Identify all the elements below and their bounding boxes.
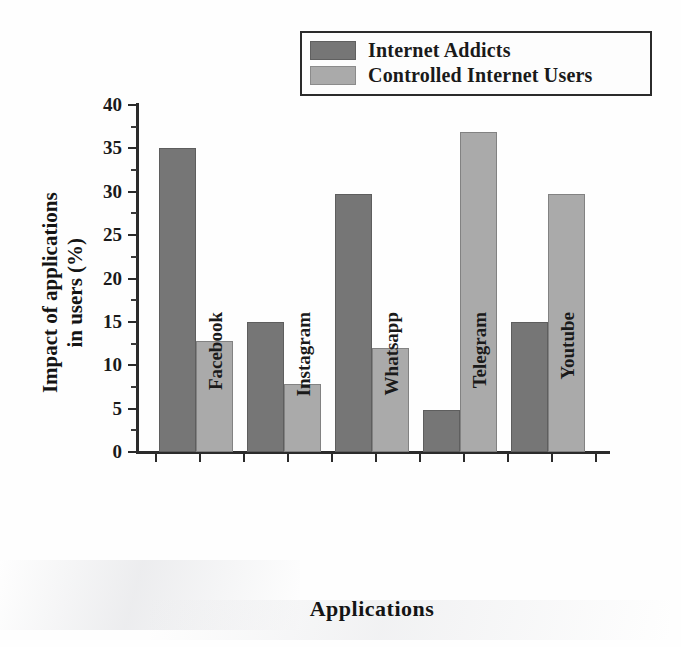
x-category-label-facebook: Facebook xyxy=(205,312,227,462)
y-tick-label-25: 25 xyxy=(84,225,122,244)
y-tick-major-30 xyxy=(128,191,137,193)
y-tick-minor-12.5 xyxy=(131,343,137,345)
y-tick-major-0 xyxy=(128,451,137,453)
y-tick-major-10 xyxy=(128,364,137,366)
y-tick-major-40 xyxy=(128,104,137,106)
x-category-label-instagram: Instagram xyxy=(293,312,315,462)
x-category-label-telegram: Telegram xyxy=(469,312,491,462)
y-axis-title: Impact of applicationsin users (%) xyxy=(38,128,88,458)
y-tick-label-30: 30 xyxy=(84,182,122,201)
plot-area: 0510152025303540 FacebookInstagramWhatsa… xyxy=(0,0,681,647)
x-tick-7 xyxy=(463,452,465,462)
y-axis-title-line-2: in users (%) xyxy=(63,128,88,458)
y-tick-major-5 xyxy=(128,408,137,410)
y-tick-label-15: 15 xyxy=(84,312,122,331)
x-tick-2 xyxy=(243,452,245,462)
x-tick-0 xyxy=(155,452,157,462)
y-tick-major-35 xyxy=(128,147,137,149)
bar-instagram-internet-addicts xyxy=(247,322,284,452)
y-tick-label-10: 10 xyxy=(84,355,122,374)
y-tick-major-20 xyxy=(128,278,137,280)
x-tick-1 xyxy=(199,452,201,462)
bar-youtube-internet-addicts xyxy=(511,322,548,452)
y-tick-major-25 xyxy=(128,234,137,236)
x-category-label-youtube: Youtube xyxy=(557,312,579,462)
y-tick-minor-17.5 xyxy=(131,299,137,301)
y-axis-title-line-1: Impact of applications xyxy=(38,128,63,458)
x-tick-4 xyxy=(331,452,333,462)
y-tick-major-15 xyxy=(128,321,137,323)
x-tick-6 xyxy=(419,452,421,462)
y-tick-minor-7.5 xyxy=(131,386,137,388)
x-tick-9 xyxy=(551,452,553,462)
bar-telegram-internet-addicts xyxy=(423,410,460,452)
bar-whatsapp-internet-addicts xyxy=(335,194,372,453)
y-tick-minor-27.5 xyxy=(131,212,137,214)
y-tick-label-0: 0 xyxy=(84,442,122,461)
y-tick-minor-32.5 xyxy=(131,169,137,171)
x-axis-title: Applications xyxy=(137,596,607,622)
x-tick-8 xyxy=(507,452,509,462)
x-tick-5 xyxy=(375,452,377,462)
y-tick-minor-22.5 xyxy=(131,256,137,258)
x-tick-10 xyxy=(595,452,597,462)
bar-chart-figure: Internet Addicts Controlled Internet Use… xyxy=(0,0,681,647)
x-category-label-whatsapp: Whatsapp xyxy=(381,312,403,462)
y-tick-label-5: 5 xyxy=(84,399,122,418)
y-tick-minor-2.5 xyxy=(131,429,137,431)
y-tick-minor-37.5 xyxy=(131,126,137,128)
y-tick-label-40: 40 xyxy=(84,95,122,114)
y-tick-label-35: 35 xyxy=(84,138,122,157)
x-tick-3 xyxy=(287,452,289,462)
bar-facebook-internet-addicts xyxy=(159,148,196,452)
y-tick-label-20: 20 xyxy=(84,269,122,288)
